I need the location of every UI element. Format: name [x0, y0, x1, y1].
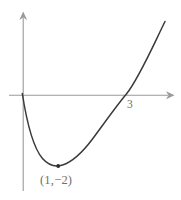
vertex-point-marker	[56, 164, 60, 168]
parabola-graph: (1,−2) 3	[0, 0, 181, 200]
parabola-curve	[22, 22, 165, 166]
vertex-label: (1,−2)	[40, 174, 72, 187]
graph-canvas	[0, 0, 181, 200]
x-intercept-label: 3	[127, 99, 133, 111]
